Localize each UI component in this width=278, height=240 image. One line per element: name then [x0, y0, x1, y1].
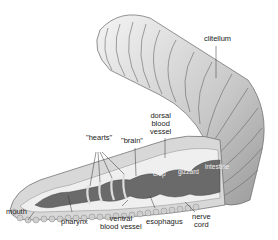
label-hearts: "hearts": [86, 134, 112, 142]
label-crop: crop: [153, 170, 166, 177]
earthworm-illustration: [0, 0, 278, 240]
label-brain: "brain": [121, 137, 143, 145]
label-mouth: mouth: [6, 208, 27, 216]
label-gizzard: gizzard: [178, 168, 199, 175]
label-esophagus: esophagus: [146, 218, 183, 226]
label-pharynx: pharynx: [61, 218, 88, 226]
label-intestine: intestine: [205, 163, 229, 170]
label-dorsal-blood-vessel: dorsal blood vessel: [150, 112, 171, 136]
label-clitellum: clitellum: [204, 35, 231, 43]
label-ventral-blood-vessel: ventral blood vessel: [100, 215, 142, 231]
label-nerve-cord: nerve cord: [192, 213, 211, 229]
